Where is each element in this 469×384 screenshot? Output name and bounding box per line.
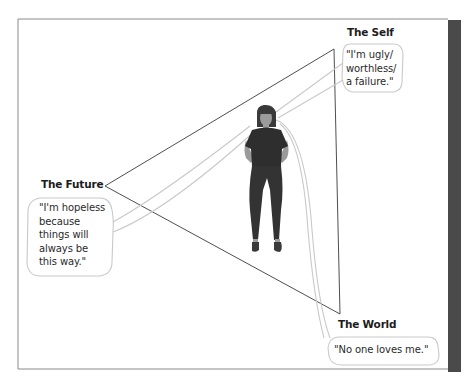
cognitive-triad-diagram: The Self "I'm ugly/ worthless/ a failure… (0, 0, 469, 384)
future-quote: "I'm hopeless because things will always… (39, 201, 105, 269)
side-bar (448, 20, 461, 372)
diagram-artwork (0, 0, 469, 384)
world-title: The World (338, 318, 396, 330)
self-bubble-tail (276, 63, 343, 118)
self-quote: "I'm ugly/ worthless/ a failure." (346, 48, 396, 89)
future-title: The Future (41, 178, 103, 190)
triad-triangle (105, 49, 340, 314)
self-title: The Self (347, 26, 394, 38)
standing-person-icon (245, 105, 289, 252)
world-quote: "No one loves me." (334, 343, 428, 357)
future-bubble-tail (113, 126, 256, 232)
